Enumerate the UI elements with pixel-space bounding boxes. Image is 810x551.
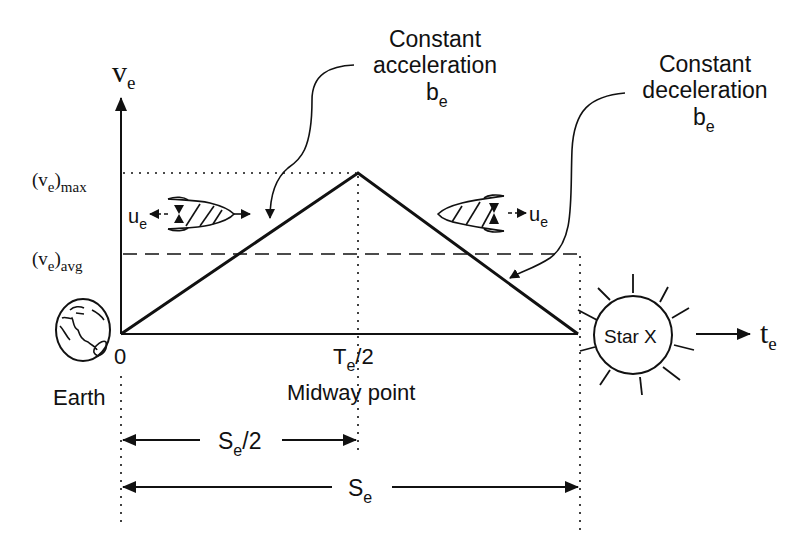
outbound-thrust-label: ue xyxy=(128,205,147,232)
deceleration-annotation: Constant deceleration be xyxy=(510,51,768,278)
max-velocity-label: (ve)max xyxy=(32,169,87,195)
midpoint-caption: Midway point xyxy=(287,380,415,405)
svg-text:Constant: Constant xyxy=(389,26,482,52)
y-axis: ve xyxy=(112,55,135,334)
x-axis-label: te xyxy=(760,316,777,354)
avg-velocity-label: (ve)avg xyxy=(32,248,83,274)
origin-tick-label: 0 xyxy=(114,344,126,369)
svg-text:deceleration: deceleration xyxy=(642,77,767,103)
inbound-thrust-label: ue xyxy=(529,203,548,230)
svg-text:acceleration: acceleration xyxy=(373,52,497,78)
full-distance-dimension: Se xyxy=(123,475,578,506)
half-distance-dimension: Se/2 xyxy=(123,428,356,459)
x-axis: te xyxy=(696,316,777,354)
rocket-outbound-icon xyxy=(150,197,250,231)
acceleration-symbol: be xyxy=(426,79,448,110)
deceleration-symbol: be xyxy=(693,104,715,135)
earth-globe-icon xyxy=(56,299,110,361)
svg-text:Constant: Constant xyxy=(659,51,752,77)
midpoint-tick-label: Te/2 xyxy=(333,344,374,374)
rocket-inbound-icon xyxy=(438,195,526,232)
earth-label: Earth xyxy=(53,385,106,410)
full-distance-label: Se xyxy=(348,475,372,506)
y-axis-label: ve xyxy=(112,55,135,93)
acceleration-annotation: Constant acceleration be xyxy=(270,26,497,218)
star-label: Star X xyxy=(604,326,657,347)
velocity-profile-diagram: ve (ve)max (ve)avg 0 Te/2 Midway point E… xyxy=(0,0,810,551)
half-distance-label: Se/2 xyxy=(218,428,261,459)
